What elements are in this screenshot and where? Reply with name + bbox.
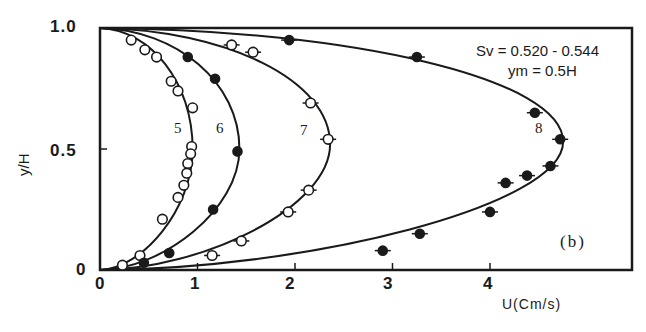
data-point-8 [415, 229, 424, 238]
data-point-5 [166, 76, 176, 86]
fit-curve-5 [100, 28, 193, 270]
data-point-5 [118, 260, 128, 270]
annotation-sv: Sv = 0.520 - 0.544 [476, 42, 599, 59]
data-point-5 [158, 214, 168, 224]
data-point-5 [152, 52, 162, 62]
data-point-7 [207, 251, 217, 261]
data-point-5 [140, 45, 150, 55]
data-point-8 [501, 178, 510, 187]
curve-label-6: 6 [216, 120, 224, 137]
data-point-8 [378, 246, 387, 255]
curve-label-8: 8 [535, 120, 543, 137]
fit-curve-7 [100, 28, 330, 270]
fit-curve-8 [100, 28, 563, 270]
data-point-6 [139, 258, 148, 267]
curve-label-7: 7 [300, 122, 308, 139]
data-point-7 [237, 236, 247, 246]
y-tick-0: 0 [76, 260, 86, 280]
data-point-5 [173, 193, 183, 203]
data-point-5 [179, 181, 189, 191]
x-tick-0: 0 [95, 274, 104, 294]
data-point-7 [323, 135, 333, 145]
x-axis-label: U(Cm/s) [502, 296, 561, 312]
data-point-8 [285, 36, 294, 45]
data-point-6 [211, 74, 220, 83]
data-point-7 [283, 207, 293, 217]
x-tick-3: 3 [383, 274, 392, 294]
annotation-ym: ym = 0.5H [508, 62, 577, 79]
data-point-8 [556, 135, 565, 144]
x-tick-4: 4 [483, 274, 492, 294]
fit-curve-6 [100, 28, 239, 270]
data-point-8 [412, 53, 421, 62]
data-point-6 [233, 147, 242, 156]
y-axis-label: y/H [15, 154, 32, 177]
data-point-8 [486, 207, 495, 216]
x-tick-2: 2 [285, 274, 294, 294]
panel-label: (b) [560, 232, 586, 252]
y-tick-0.5: 0.5 [50, 141, 77, 161]
data-point-6 [209, 205, 218, 214]
y-tick-1.0: 1.0 [50, 17, 77, 37]
data-point-5 [183, 159, 193, 169]
curve-label-5: 5 [174, 120, 182, 137]
data-point-8 [530, 108, 539, 117]
data-point-7 [227, 40, 237, 50]
data-point-5 [173, 86, 183, 96]
data-point-7 [306, 98, 316, 108]
data-point-6 [165, 249, 174, 258]
data-point-7 [304, 185, 314, 195]
data-point-5 [126, 35, 136, 45]
data-point-6 [183, 53, 192, 62]
data-point-5 [188, 103, 198, 113]
data-point-8 [523, 171, 532, 180]
x-tick-1: 1 [190, 274, 199, 294]
data-point-5 [186, 149, 196, 159]
data-point-5 [182, 168, 192, 178]
data-point-7 [248, 47, 258, 57]
data-point-8 [546, 161, 555, 170]
